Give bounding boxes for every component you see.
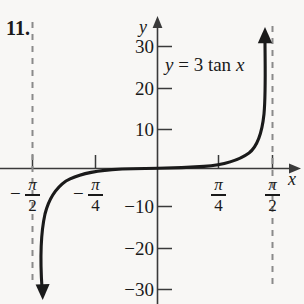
fraction-denominator: 2 bbox=[263, 196, 282, 214]
equation-equals: = bbox=[178, 54, 189, 75]
equation-annotation: y = 3 tan x bbox=[165, 55, 244, 74]
y-tick-label-20: 20 bbox=[116, 78, 154, 100]
x-tick-label-neg-pi-over-4: − π 4 bbox=[86, 176, 105, 214]
x-tick-label-pi-over-4: π 4 bbox=[209, 176, 228, 214]
y-axis-arrowhead bbox=[153, 16, 163, 28]
fraction-numerator: π bbox=[209, 176, 228, 194]
y-tick-label-neg10: −10 bbox=[104, 196, 154, 218]
y-axis-label: y bbox=[139, 18, 147, 36]
curve-arrowhead-top bbox=[258, 27, 272, 43]
figure-canvas: 11. y = 3 tan x y x 30 20 10 −10 −20 −30… bbox=[0, 0, 304, 304]
fraction-numerator: π bbox=[86, 176, 105, 194]
minus-sign: − bbox=[10, 184, 21, 203]
curve-arrowhead-bottom bbox=[36, 284, 50, 300]
minus-sign: − bbox=[73, 184, 84, 203]
equation-function: tan bbox=[208, 54, 231, 75]
fraction-numerator: π bbox=[23, 176, 42, 194]
x-tick-label-pi-over-2: π 2 bbox=[263, 176, 282, 214]
x-axis-label: x bbox=[288, 170, 296, 188]
problem-number: 11. bbox=[6, 18, 30, 38]
x-tick-label-neg-pi-over-2: − π 2 bbox=[23, 176, 42, 214]
y-tick-label-neg30: −30 bbox=[104, 279, 154, 301]
fraction-numerator: π bbox=[263, 176, 282, 194]
y-tick-label-30: 30 bbox=[116, 36, 154, 58]
y-tick-label-neg20: −20 bbox=[104, 238, 154, 260]
fraction-denominator: 4 bbox=[209, 196, 228, 214]
equation-coefficient: 3 bbox=[194, 54, 204, 75]
fraction-denominator: 2 bbox=[23, 196, 42, 214]
equation-variable: x bbox=[236, 54, 244, 75]
fraction-denominator: 4 bbox=[86, 196, 105, 214]
y-tick-label-10: 10 bbox=[116, 119, 154, 141]
